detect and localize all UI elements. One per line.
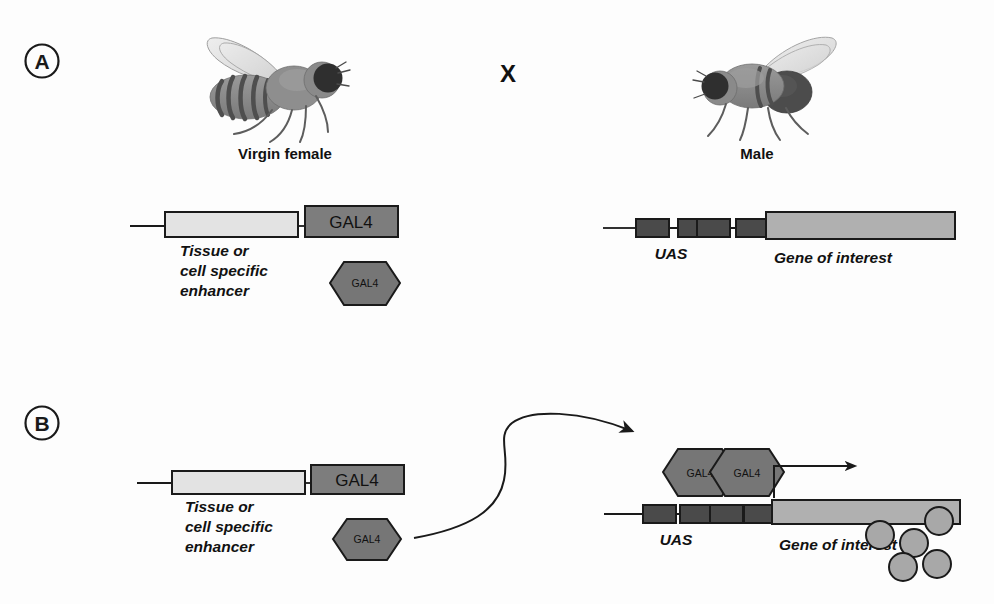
- panel-b-letter-text: B: [34, 412, 49, 435]
- protein-circle: [923, 550, 951, 578]
- panel-a-driver-construct: GAL4 Tissue or cell specific enhancer GA…: [130, 206, 400, 305]
- uas-repeat-boxes: [643, 505, 775, 523]
- diagram-canvas: A: [0, 0, 994, 604]
- enhancer-box: [165, 212, 298, 237]
- gene-of-interest-label: Gene of interest: [774, 249, 893, 266]
- gal4-box-label: GAL4: [329, 213, 372, 232]
- panel-a-letter: A: [26, 45, 59, 78]
- panel-a-responder-construct: UAS Gene of interest: [603, 212, 955, 266]
- gal4-protein-label: GAL4: [352, 277, 379, 289]
- uas-label: UAS: [655, 245, 688, 262]
- virgin-female-caption: Virgin female: [238, 145, 332, 162]
- fly-head-icon: [304, 62, 350, 98]
- male-caption: Male: [740, 145, 773, 162]
- enhancer-label-line-2: cell specific: [180, 262, 268, 279]
- gal4-protein-hexagon: GAL4: [333, 519, 401, 560]
- gal4-protein-label: GAL4: [354, 533, 381, 545]
- uas-label: UAS: [660, 531, 693, 548]
- enhancer-label-line-3: enhancer: [185, 538, 255, 555]
- gal4-translocation-arrow: [414, 414, 632, 538]
- uas-repeat-boxes: [636, 219, 767, 237]
- virgin-female-fly-illustration: Virgin female: [207, 38, 350, 162]
- enhancer-label-line-1: Tissue or: [180, 242, 250, 259]
- protein-circle: [866, 521, 894, 549]
- protein-circle: [925, 507, 953, 535]
- protein-circle: [889, 553, 917, 581]
- cross-symbol: X: [500, 60, 516, 87]
- bound-gal4-label-right: GAL4: [734, 467, 761, 479]
- bound-gal4-hexagon-right: GAL4: [710, 449, 784, 496]
- enhancer-label-line-3: enhancer: [180, 282, 250, 299]
- male-fly-illustration: Male: [693, 37, 836, 162]
- panel-b-responder-construct: GAL4 GAL4 UAS Gene of interest: [604, 449, 960, 581]
- panel-a-letter-text: A: [34, 50, 49, 73]
- gal4-protein-hexagon: GAL4: [330, 262, 400, 305]
- transcription-arrow: [774, 466, 855, 498]
- panel-b-driver-construct: GAL4 Tissue or cell specific enhancer GA…: [137, 465, 404, 560]
- panel-b-letter: B: [26, 407, 59, 440]
- enhancer-label-line-1: Tissue or: [185, 498, 255, 515]
- gal4-box-label: GAL4: [335, 471, 378, 490]
- enhancer-box: [172, 471, 305, 494]
- enhancer-label-line-2: cell specific: [185, 518, 273, 535]
- gene-of-interest-box: [766, 212, 955, 239]
- fly-head-icon: [693, 71, 737, 105]
- figure-root: A: [0, 0, 994, 604]
